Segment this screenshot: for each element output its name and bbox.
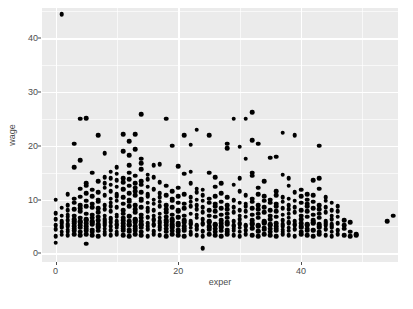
- data-point: [59, 12, 64, 17]
- data-point: [170, 232, 175, 237]
- data-point: [207, 232, 212, 237]
- data-point: [182, 234, 187, 239]
- data-point: [102, 193, 107, 198]
- data-point: [90, 194, 95, 199]
- data-point: [323, 210, 328, 215]
- data-point: [299, 232, 304, 237]
- data-point: [133, 207, 138, 212]
- data-point: [115, 184, 120, 189]
- data-point: [250, 226, 255, 231]
- data-point: [213, 233, 218, 238]
- data-point: [207, 220, 212, 225]
- data-point: [102, 226, 107, 231]
- data-point: [268, 213, 273, 218]
- data-point: [213, 214, 218, 219]
- gridline-y-minor: [42, 173, 398, 174]
- data-point: [139, 225, 144, 230]
- data-point: [231, 197, 236, 202]
- data-point: [127, 170, 132, 175]
- data-point: [274, 209, 279, 214]
- data-point: [207, 227, 212, 232]
- data-point: [256, 185, 261, 190]
- data-point: [182, 133, 187, 138]
- data-point: [293, 234, 298, 239]
- data-point: [286, 233, 291, 238]
- data-point: [145, 206, 150, 211]
- data-point: [65, 214, 70, 219]
- data-point: [207, 213, 212, 218]
- data-point: [90, 227, 95, 232]
- data-point: [250, 196, 255, 201]
- data-point: [262, 194, 267, 199]
- data-point: [127, 163, 132, 168]
- data-point: [121, 149, 126, 154]
- data-point: [133, 228, 138, 233]
- data-point: [84, 116, 89, 121]
- data-point: [108, 196, 113, 201]
- data-point: [84, 191, 89, 196]
- data-point: [84, 218, 89, 223]
- gridline-y-minor: [42, 119, 398, 120]
- data-point: [176, 208, 181, 213]
- data-point: [336, 221, 341, 226]
- data-point: [243, 232, 248, 237]
- data-point: [336, 209, 341, 214]
- data-point: [336, 214, 341, 219]
- data-point: [213, 209, 218, 214]
- data-point: [170, 212, 175, 217]
- data-point: [213, 226, 218, 231]
- data-point: [274, 193, 279, 198]
- data-point: [53, 240, 58, 245]
- data-point: [188, 181, 193, 186]
- data-point: [78, 187, 83, 192]
- data-point: [293, 210, 298, 215]
- data-point: [59, 221, 64, 226]
- data-point: [256, 207, 261, 212]
- data-point: [262, 179, 267, 184]
- data-point: [243, 209, 248, 214]
- data-point: [158, 233, 163, 238]
- data-point: [231, 223, 236, 228]
- data-point: [139, 179, 144, 184]
- data-point: [194, 212, 199, 217]
- data-point: [342, 218, 347, 223]
- data-point: [201, 217, 206, 222]
- data-point: [115, 232, 120, 237]
- data-point: [250, 170, 255, 175]
- data-point: [280, 173, 285, 178]
- x-tick-label: 40: [296, 266, 306, 276]
- data-point: [151, 175, 156, 180]
- data-point: [121, 208, 126, 213]
- data-point: [219, 199, 224, 204]
- data-point: [213, 184, 218, 189]
- data-point: [286, 211, 291, 216]
- data-point: [336, 227, 341, 232]
- data-point: [268, 222, 273, 227]
- data-point: [256, 211, 261, 216]
- data-point: [219, 218, 224, 223]
- data-point: [65, 227, 70, 232]
- data-point: [170, 219, 175, 224]
- data-point: [268, 208, 273, 213]
- data-point: [274, 154, 279, 159]
- data-point: [96, 133, 101, 138]
- y-tick-mark: [38, 145, 41, 146]
- data-point: [78, 158, 83, 163]
- data-point: [133, 147, 138, 152]
- data-point: [72, 221, 77, 226]
- data-point: [127, 213, 132, 218]
- data-point: [194, 187, 199, 192]
- data-point: [139, 205, 144, 210]
- data-point: [145, 226, 150, 231]
- data-point: [188, 195, 193, 200]
- data-point: [133, 132, 138, 137]
- data-point: [311, 206, 316, 211]
- data-point: [280, 227, 285, 232]
- data-point: [194, 197, 199, 202]
- data-point: [72, 226, 77, 231]
- data-point: [127, 204, 132, 209]
- data-point: [201, 246, 206, 251]
- data-point: [158, 227, 163, 232]
- data-point: [237, 213, 242, 218]
- data-point: [96, 210, 101, 215]
